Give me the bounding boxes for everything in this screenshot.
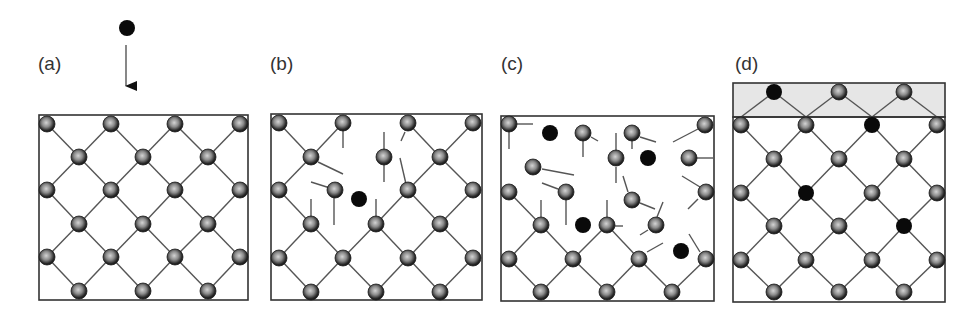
host-atom	[200, 216, 216, 232]
host-atom	[798, 117, 814, 133]
substrate-frame	[39, 115, 248, 300]
bond-line	[640, 137, 656, 142]
bond-line	[640, 203, 655, 209]
host-atom	[575, 125, 591, 141]
host-atom	[896, 151, 912, 167]
host-atom	[525, 159, 541, 175]
deposited-atom	[351, 191, 367, 207]
host-atom	[929, 185, 945, 201]
host-atom	[896, 84, 912, 100]
host-atom	[798, 252, 814, 268]
panel-c	[501, 116, 714, 301]
host-atom	[135, 283, 151, 299]
host-atom	[71, 149, 87, 165]
bond-line	[657, 202, 663, 217]
bond-line	[591, 137, 598, 141]
bond-line	[542, 183, 558, 189]
incoming-atom	[119, 20, 135, 36]
host-atom	[733, 117, 749, 133]
host-atom	[766, 218, 782, 234]
host-atom	[831, 84, 847, 100]
host-atom	[432, 216, 448, 232]
deposited-atom	[575, 217, 591, 233]
host-atom	[432, 149, 448, 165]
host-atom	[465, 250, 481, 266]
host-atom	[368, 284, 384, 300]
host-atom	[103, 116, 119, 132]
host-atom	[896, 284, 912, 300]
host-atom	[864, 252, 880, 268]
deposition-diagram	[0, 0, 976, 318]
bond-line	[688, 199, 698, 209]
panel-label-a: (a)	[38, 54, 61, 73]
host-atom	[303, 284, 319, 300]
host-atom	[400, 182, 416, 198]
host-atom	[681, 150, 697, 166]
deposited-atom	[766, 84, 782, 100]
bond-line	[673, 129, 698, 142]
host-atom	[465, 182, 481, 198]
host-atom	[335, 250, 351, 266]
host-atom	[71, 216, 87, 232]
bond-line	[689, 234, 700, 252]
host-atom	[831, 284, 847, 300]
host-atom	[631, 251, 647, 267]
panel-a	[39, 20, 248, 300]
host-atom	[103, 182, 119, 198]
host-atom	[135, 149, 151, 165]
substrate-frame	[733, 117, 945, 302]
host-atom	[929, 252, 945, 268]
host-atom	[599, 217, 615, 233]
host-atom	[376, 149, 392, 165]
host-atom	[271, 250, 287, 266]
host-atom	[501, 251, 517, 267]
host-atom	[698, 251, 714, 267]
bond-line	[401, 132, 405, 141]
host-atom	[167, 249, 183, 265]
host-atom	[648, 217, 664, 233]
host-atom	[200, 149, 216, 165]
panel-b	[271, 114, 482, 300]
host-atom	[71, 283, 87, 299]
panel-d	[733, 83, 945, 302]
bond-line	[647, 243, 663, 252]
host-atom	[167, 182, 183, 198]
host-atom	[733, 185, 749, 201]
deposited-atom	[640, 150, 656, 166]
host-atom	[533, 284, 549, 300]
host-atom	[103, 249, 119, 265]
host-atom	[766, 151, 782, 167]
bond-line	[640, 230, 648, 235]
host-atom	[565, 251, 581, 267]
host-atom	[624, 192, 640, 208]
bond-line	[400, 158, 406, 184]
deposited-atom	[673, 243, 689, 259]
host-atom	[501, 184, 517, 200]
host-atom	[135, 216, 151, 232]
host-atom	[39, 182, 55, 198]
bond-line	[318, 162, 343, 174]
host-atom	[599, 284, 615, 300]
host-atom	[733, 252, 749, 268]
deposited-atom	[542, 125, 558, 141]
host-atom	[39, 249, 55, 265]
host-atom	[39, 116, 55, 132]
host-atom	[664, 284, 680, 300]
host-atom	[624, 125, 640, 141]
host-atom	[831, 151, 847, 167]
panel-label-c: (c)	[501, 54, 523, 73]
deposited-atom	[798, 185, 814, 201]
host-atom	[558, 184, 574, 200]
host-atom	[766, 284, 782, 300]
host-atom	[303, 149, 319, 165]
deposited-atom	[864, 117, 880, 133]
host-atom	[533, 217, 549, 233]
host-atom	[929, 117, 945, 133]
host-atom	[232, 182, 248, 198]
host-atom	[501, 116, 517, 132]
panel-label-b: (b)	[270, 54, 293, 73]
host-atom	[271, 182, 287, 198]
host-atom	[465, 115, 481, 131]
host-atom	[831, 218, 847, 234]
bond-line	[623, 176, 628, 192]
